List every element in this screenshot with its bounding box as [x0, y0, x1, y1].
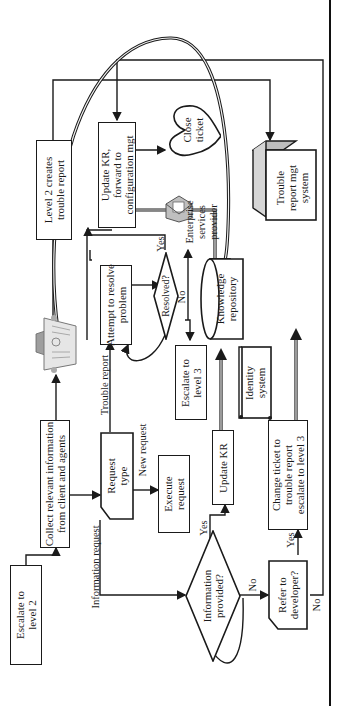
page-edge-rule — [329, 0, 331, 706]
information-provided-decision: Information provided? — [185, 530, 241, 662]
change-ticket-box: Change ticket to trouble report escalate… — [268, 420, 308, 530]
close-ticket-label: Close ticket — [181, 117, 205, 142]
knowledge-repository-label: Knowledge repository — [214, 274, 238, 325]
information-request-label: Information request — [90, 525, 101, 608]
identity-system-label: Identity system — [243, 365, 267, 399]
yes-info-label: Yes — [198, 520, 209, 535]
enterprise-services-provider-label: Enterprise services provider — [184, 200, 220, 243]
request-type-label: Request type — [105, 458, 129, 493]
flowchart-canvas: Escalate to level 2 Collect relevant inf… — [0, 0, 341, 718]
refer-to-developer-box: Refer to developer? — [268, 560, 308, 630]
escalate-to-level-3-label: Escalate to level 3 — [179, 359, 203, 407]
resolved-label: Resolved? — [160, 275, 172, 317]
no-resolved-label: No — [176, 291, 187, 304]
refer-to-developer-label: Refer to developer? — [276, 571, 300, 619]
level-2-creates-label: Level 2 creates trouble report — [42, 157, 66, 224]
knowledge-repository-cylinder: Knowledge repository — [200, 258, 244, 340]
collect-info-box: Collect relevant information from client… — [40, 420, 70, 548]
trouble-report-mgt-system-label: Trouble report mgt system — [274, 164, 310, 210]
execute-request-label: Execute request — [162, 476, 186, 511]
escalate-to-level-2-label: Escalate to level 2 — [14, 591, 38, 639]
execute-request-box: Execute request — [158, 455, 190, 533]
update-kr-label: Update KR — [217, 443, 229, 493]
yes-refer-label: Yes — [285, 532, 296, 547]
trouble-report-label: Trouble report — [99, 355, 110, 416]
no-info-label: No — [247, 579, 258, 592]
update-kr-box: Update KR — [212, 430, 234, 505]
trouble-report-mgt-system-cube: Trouble report mgt system — [252, 140, 318, 222]
close-ticket-heart: Close ticket — [165, 100, 221, 160]
new-request-label: New request — [137, 424, 148, 477]
escalate-to-level-3-box: Escalate to level 3 — [175, 345, 207, 420]
update-kr-forward-label: Update KR, forward to configuration mgt — [99, 135, 135, 214]
update-kr-forward-box: Update KR, forward to configuration mgt — [98, 122, 136, 228]
escalate-to-level-2-box: Escalate to level 2 — [10, 565, 42, 665]
newspaper-icon — [30, 312, 82, 374]
change-ticket-label: Change ticket to trouble report escalate… — [270, 436, 306, 515]
attempt-to-resolve-label: Attempt to resolve problem — [104, 264, 128, 346]
request-type-box: Request type — [100, 432, 134, 520]
yes-resolved-label: Yes — [155, 236, 166, 251]
enterprise-services-provider: Enterprise services provider — [160, 190, 220, 254]
level-2-creates-trouble-report-box: Level 2 creates trouble report — [36, 140, 72, 240]
no-refer-label: No — [311, 599, 322, 612]
information-provided-label: Information provided? — [201, 570, 225, 623]
collect-info-label: Collect relevant information from client… — [43, 422, 67, 547]
identity-system-scroll: Identity system — [238, 345, 272, 420]
attempt-to-resolve-box: Attempt to resolve problem — [100, 265, 132, 345]
